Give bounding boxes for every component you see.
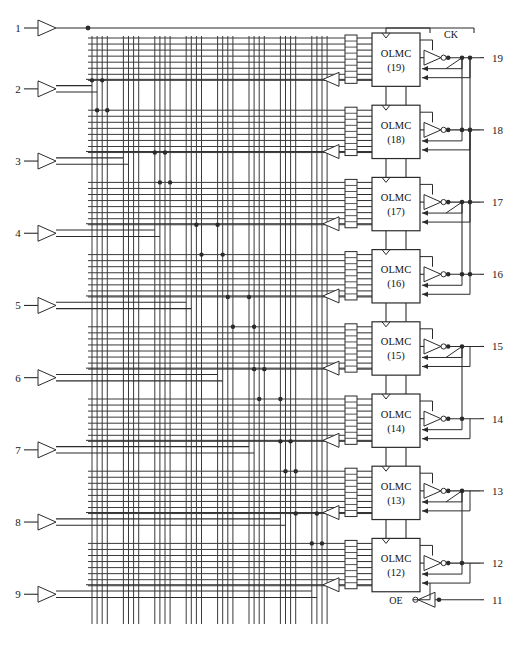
inverting-bubble bbox=[441, 560, 446, 565]
olmc-block-16 bbox=[372, 250, 420, 303]
input-pin-label-7: 7 bbox=[15, 444, 21, 456]
fuse-dot bbox=[105, 108, 109, 112]
inverting-bubble bbox=[441, 55, 446, 60]
olmc-block-12 bbox=[372, 538, 420, 591]
inverting-bubble bbox=[441, 199, 446, 204]
input-pin-label-3: 3 bbox=[15, 155, 21, 167]
fuse-dot bbox=[194, 223, 198, 227]
fuse-dot bbox=[294, 511, 298, 515]
output-pin-label-17: 17 bbox=[492, 196, 504, 208]
output-pin-label-12: 12 bbox=[492, 557, 503, 569]
olmc-label-18: OLMC bbox=[381, 120, 411, 131]
olmc-label-14: OLMC bbox=[381, 409, 411, 420]
fuse-dot bbox=[168, 180, 172, 184]
fuse-dot bbox=[278, 397, 282, 401]
output-pin-label-16: 16 bbox=[492, 268, 504, 280]
input-pin-label-9: 9 bbox=[15, 588, 21, 600]
clock-label: CK bbox=[444, 29, 459, 40]
fuse-dot bbox=[95, 108, 99, 112]
clock-tap bbox=[86, 26, 91, 31]
inverting-bubble bbox=[441, 488, 446, 493]
olmc-number-14: (14) bbox=[387, 423, 405, 435]
output-tap-14 bbox=[446, 416, 451, 421]
output-pin-label-13: 13 bbox=[492, 485, 504, 497]
fuse-dot bbox=[288, 439, 292, 443]
oe-label: OE bbox=[389, 595, 402, 606]
fuse-dot bbox=[226, 295, 230, 299]
output-tap-12 bbox=[446, 561, 451, 566]
olmc-label-19: OLMC bbox=[381, 48, 411, 59]
input-pin-label-2: 2 bbox=[15, 83, 21, 95]
output-tap-16 bbox=[446, 272, 451, 277]
fuse-dot bbox=[252, 325, 256, 329]
olmc-label-13: OLMC bbox=[381, 481, 411, 492]
input-pin-label-1: 1 bbox=[15, 22, 21, 34]
fuse-dot bbox=[90, 78, 94, 82]
fuse-dot bbox=[231, 325, 235, 329]
oe-tap bbox=[437, 597, 442, 602]
output-tap-18 bbox=[446, 128, 451, 133]
fuse-dot bbox=[294, 469, 298, 473]
olmc-block-13 bbox=[372, 466, 420, 519]
input-pin-label-4: 4 bbox=[15, 227, 21, 239]
input-pin-label-8: 8 bbox=[15, 516, 21, 528]
olmc-block-18 bbox=[372, 105, 420, 158]
fuse-dot bbox=[221, 252, 225, 256]
inverting-bubble bbox=[441, 272, 446, 277]
output-pin-label-19: 19 bbox=[492, 52, 504, 64]
output-tap-19 bbox=[446, 55, 451, 60]
olmc-label-17: OLMC bbox=[381, 192, 411, 203]
fuse-dot bbox=[100, 78, 104, 82]
output-pin-label-18: 18 bbox=[492, 124, 504, 136]
output-tap-13 bbox=[446, 489, 451, 494]
inverting-bubble bbox=[441, 127, 446, 132]
input-pin-label-6: 6 bbox=[15, 372, 21, 384]
olmc-block-17 bbox=[372, 177, 420, 230]
fuse-dot bbox=[315, 511, 319, 515]
input-pin-label-5: 5 bbox=[15, 299, 21, 311]
logic-diagram-canvas: 123456789OLMC(19)OLMC(18)OLMC(17)OLMC(16… bbox=[0, 0, 519, 648]
olmc-number-19: (19) bbox=[387, 62, 405, 74]
fuse-dot bbox=[199, 252, 203, 256]
fuse-dot bbox=[262, 367, 266, 371]
output-tap-15 bbox=[446, 344, 451, 349]
olmc-block-15 bbox=[372, 322, 420, 375]
inverting-bubble bbox=[441, 416, 446, 421]
inverting-bubble bbox=[441, 344, 446, 349]
fuse-dot bbox=[153, 150, 157, 154]
olmc-number-18: (18) bbox=[387, 134, 405, 146]
fuse-dot bbox=[257, 397, 261, 401]
output-tap-17 bbox=[446, 200, 451, 205]
olmc-number-13: (13) bbox=[387, 495, 405, 507]
fuse-dot bbox=[283, 469, 287, 473]
fuse-dot bbox=[163, 150, 167, 154]
olmc-number-12: (12) bbox=[387, 567, 405, 579]
olmc-label-15: OLMC bbox=[381, 336, 411, 347]
output-pin-label-14: 14 bbox=[492, 413, 504, 425]
olmc-block-14 bbox=[372, 394, 420, 447]
olmc-number-16: (16) bbox=[387, 278, 405, 290]
fuse-dot bbox=[278, 439, 282, 443]
olmc-number-15: (15) bbox=[387, 350, 405, 362]
olmc-label-16: OLMC bbox=[381, 264, 411, 275]
olmc-label-12: OLMC bbox=[381, 553, 411, 564]
output-pin-label-15: 15 bbox=[492, 340, 504, 352]
fuse-dot bbox=[247, 295, 251, 299]
fuse-dot bbox=[310, 541, 314, 545]
fuse-dot bbox=[252, 367, 256, 371]
fuse-dot bbox=[320, 541, 324, 545]
output-pin-label-11: 11 bbox=[492, 594, 503, 606]
fuse-dot bbox=[215, 223, 219, 227]
olmc-number-17: (17) bbox=[387, 206, 405, 218]
gal-logic-diagram: 123456789OLMC(19)OLMC(18)OLMC(17)OLMC(16… bbox=[0, 0, 519, 648]
fuse-dot bbox=[158, 180, 162, 184]
olmc-block-19 bbox=[372, 33, 420, 86]
